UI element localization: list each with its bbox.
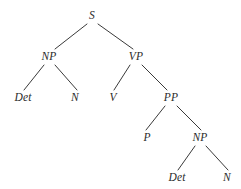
tree-branch-pp-np2 xyxy=(177,106,201,130)
tree-node-p: P xyxy=(143,132,150,144)
tree-branch-np2-n2 xyxy=(206,146,228,170)
tree-node-det2: Det xyxy=(168,172,185,184)
tree-branch-np1-det1 xyxy=(24,65,44,90)
tree-branch-pp-p xyxy=(146,106,165,130)
tree-node-n2: N xyxy=(223,172,231,184)
tree-node-n1: N xyxy=(71,92,79,104)
tree-node-v: V xyxy=(109,92,116,104)
tree-node-np2: NP xyxy=(192,132,207,144)
tree-branch-s-np1 xyxy=(55,24,87,49)
tree-branch-vp-v xyxy=(114,65,130,90)
tree-node-s: S xyxy=(89,10,95,22)
tree-node-pp: PP xyxy=(164,92,178,104)
tree-branches-layer xyxy=(0,0,241,189)
tree-node-vp: VP xyxy=(129,51,143,63)
tree-branch-np1-n1 xyxy=(55,65,77,90)
tree-node-det1: Det xyxy=(14,92,31,104)
syntax-tree-diagram: SNPVPDetNVPPPNPDetN xyxy=(0,0,241,189)
tree-branch-np2-det2 xyxy=(178,146,195,170)
tree-branch-vp-pp xyxy=(142,65,167,90)
tree-branch-s-vp xyxy=(98,24,133,49)
tree-node-np1: NP xyxy=(41,51,56,63)
